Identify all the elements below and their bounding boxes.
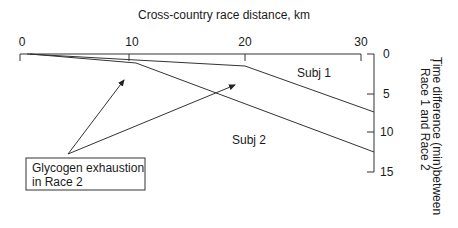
series-label-subj-1: Subj 1 xyxy=(297,66,331,80)
y-tick-label: 10 xyxy=(380,125,394,139)
y-tick-label: 15 xyxy=(380,165,394,179)
x-tick-label: 10 xyxy=(125,35,139,49)
x-axis-title: Cross-country race distance, km xyxy=(138,8,310,22)
y-axis-title: Time difference (min)between Race 1 and … xyxy=(418,57,444,215)
chart: Cross-country race distance, km 0 10 20 … xyxy=(0,0,458,228)
x-tick-label: 20 xyxy=(238,35,252,49)
series-label-subj-2: Subj 2 xyxy=(232,133,266,147)
y-tick-label: 5 xyxy=(383,87,390,101)
annotation-text-line-1: Glycogen exhaustion xyxy=(32,161,144,175)
x-tick-label: 0 xyxy=(19,35,26,49)
y-axis-title-line-2: Race 1 and Race 2 xyxy=(418,68,432,171)
series-line-subj-1 xyxy=(27,54,374,112)
y-axis: 0 5 10 15 xyxy=(367,47,394,179)
x-tick-label: 30 xyxy=(354,35,368,49)
y-tick-label: 0 xyxy=(383,47,390,61)
annotation-text-line-2: in Race 2 xyxy=(32,175,83,189)
annotation-arrow-subj-1 xyxy=(68,85,235,154)
annotation-box: Glycogen exhaustion in Race 2 xyxy=(26,158,145,190)
